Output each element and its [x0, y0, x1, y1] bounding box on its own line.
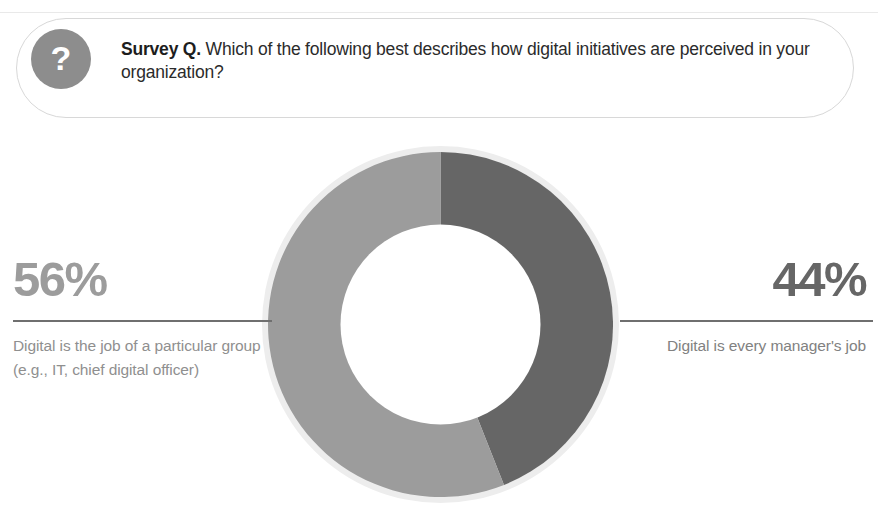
donut-chart — [262, 146, 619, 525]
stat-left-rule — [13, 320, 272, 322]
stat-left-description: Digital is the job of a particular group… — [13, 334, 263, 382]
stat-right: 44% Digital is every manager's job — [620, 255, 866, 358]
survey-question-text: Survey Q. Which of the following best de… — [121, 38, 821, 84]
question-mark-glyph: ? — [51, 41, 72, 75]
donut-chart-svg — [268, 152, 613, 525]
donut-hole — [341, 225, 541, 425]
question-mark-icon: ? — [31, 29, 91, 89]
stat-right-rule — [620, 320, 873, 322]
survey-question-copy: Which of the following best describes ho… — [121, 39, 810, 82]
survey-question-label: Survey Q. — [121, 39, 201, 59]
survey-chart-page: ? Survey Q. Which of the following best … — [0, 0, 878, 525]
stat-left: 56% Digital is the job of a particular g… — [13, 255, 263, 382]
stat-right-description: Digital is every manager's job — [620, 334, 866, 358]
survey-question-card: ? Survey Q. Which of the following best … — [16, 18, 854, 118]
stat-left-value: 56% — [13, 255, 263, 304]
stat-right-value: 44% — [620, 255, 866, 304]
top-divider — [0, 12, 878, 13]
